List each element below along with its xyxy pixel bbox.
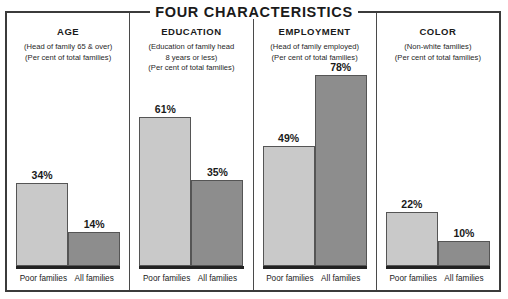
bar-all-families — [315, 75, 367, 266]
bar-poor-families — [139, 117, 191, 266]
chart-title: FOUR CHARACTERISTICS — [150, 5, 358, 20]
axis-label-all: All families — [442, 275, 487, 283]
axis-label-group: Poor families All families — [386, 271, 490, 287]
panel-employment: EMPLOYMENT (Head of family employed) (Pe… — [253, 13, 376, 290]
bar-value-label: 22% — [401, 199, 422, 210]
panel-age: AGE (Head of family 65 & over) (Per cent… — [7, 13, 129, 290]
plot-area: 49% 78% Poor families All families — [254, 25, 376, 290]
panel-education: EDUCATION (Education of family head 8 ye… — [129, 13, 252, 290]
axis-label-all: All families — [195, 275, 240, 283]
axis-label-all: All families — [72, 275, 117, 283]
plot-area: 22% 10% Poor families All families — [377, 25, 499, 290]
bar-slot-all: 78% — [318, 51, 363, 266]
bar-value-label: 34% — [32, 170, 53, 181]
axis-label-poor: Poor families — [143, 275, 188, 283]
title-rule-right — [365, 11, 403, 13]
plot-area: 61% 35% Poor families All families — [130, 25, 252, 290]
bar-all-families — [68, 232, 120, 266]
axis-label-poor: Poor families — [20, 275, 65, 283]
bar-slot-poor: 61% — [143, 51, 188, 266]
bar-value-label: 35% — [207, 167, 228, 178]
axis-label-poor: Poor families — [266, 275, 311, 283]
bar-poor-families — [263, 146, 315, 266]
bar-poor-families — [386, 212, 438, 266]
panel-group: AGE (Head of family 65 & over) (Per cent… — [7, 13, 499, 290]
axis-label-group: Poor families All families — [139, 271, 243, 287]
axis-label-group: Poor families All families — [16, 271, 120, 287]
bar-group: 34% 14% — [16, 51, 120, 266]
bar-all-families — [191, 180, 243, 266]
bar-poor-families — [16, 183, 68, 266]
panel-color: COLOR (Non-white families) (Per cent of … — [376, 13, 499, 290]
bar-slot-poor: 49% — [266, 51, 311, 266]
bar-value-label: 78% — [330, 62, 351, 73]
axis-label-poor: Poor families — [389, 275, 434, 283]
bar-value-label: 14% — [84, 219, 105, 230]
axis-baseline — [16, 266, 120, 269]
axis-label-all: All families — [318, 275, 363, 283]
bar-slot-all: 35% — [195, 51, 240, 266]
bar-slot-all: 10% — [442, 51, 487, 266]
bar-all-families — [438, 241, 490, 266]
bar-value-label: 49% — [278, 133, 299, 144]
bar-value-label: 10% — [453, 228, 474, 239]
axis-baseline — [139, 266, 243, 269]
bar-value-label: 61% — [155, 104, 176, 115]
bar-slot-all: 14% — [72, 51, 117, 266]
plot-area: 34% 14% Poor families All families — [7, 25, 129, 290]
bar-group: 22% 10% — [386, 51, 490, 266]
axis-baseline — [386, 266, 490, 269]
axis-label-group: Poor families All families — [263, 271, 367, 287]
bar-slot-poor: 34% — [20, 51, 65, 266]
bar-slot-poor: 22% — [389, 51, 434, 266]
axis-baseline — [263, 266, 367, 269]
chart-title-block: FOUR CHARACTERISTICS — [0, 2, 508, 22]
bar-group: 61% 35% — [139, 51, 243, 266]
bar-group: 49% 78% — [263, 51, 367, 266]
title-rule-left — [105, 11, 143, 13]
